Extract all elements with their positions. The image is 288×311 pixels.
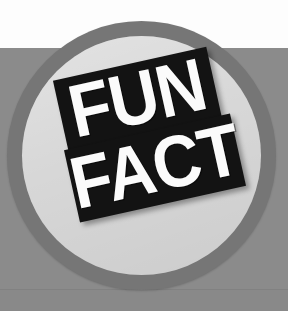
wordmark-group: FUN FACT — [0, 0, 288, 311]
fun-fact-graphic: FUN FACT — [0, 0, 288, 311]
